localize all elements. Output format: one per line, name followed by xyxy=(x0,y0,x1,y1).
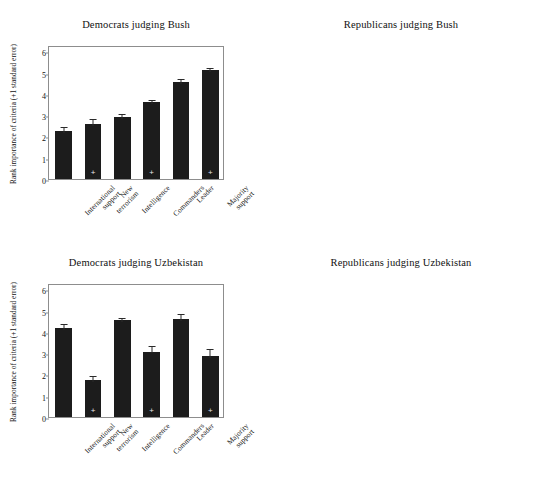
y-tick-label: 0 xyxy=(42,177,49,186)
significance-marker: + xyxy=(91,407,96,415)
error-bar-cap-top xyxy=(60,324,67,325)
y-tick-label: 1 xyxy=(42,155,49,164)
chart-panel-bottom-right: Republicans judging UzbekistanRank impor… xyxy=(265,240,537,481)
y-tick-label: 0 xyxy=(42,415,49,424)
x-tick-label: Majority support xyxy=(226,184,257,215)
panel-title: Republicans judging Uzbekistan xyxy=(265,257,537,268)
chart-panel-top-left: Democrats judging BushRank importance of… xyxy=(0,0,272,241)
error-bar-cap-top xyxy=(178,314,185,315)
y-tick-label: 5 xyxy=(42,308,49,317)
y-tick-label: 2 xyxy=(42,372,49,381)
error-bar-cap-top xyxy=(148,346,155,347)
bar xyxy=(114,117,130,179)
y-tick-label: 1 xyxy=(42,393,49,402)
error-bar xyxy=(151,346,152,354)
error-bar-cap-top xyxy=(90,376,97,377)
y-tick-label: 3 xyxy=(42,113,49,122)
error-bar xyxy=(181,314,182,321)
bar xyxy=(173,319,189,417)
panel-title: Democrats judging Uzbekistan xyxy=(0,257,272,268)
significance-marker: + xyxy=(208,407,213,415)
error-bar-cap-top xyxy=(148,100,155,101)
error-bar-cap-top xyxy=(207,349,214,350)
y-tick-label: 2 xyxy=(42,134,49,143)
chart-panel-top-right: Republicans judging BushRank importance … xyxy=(265,0,537,241)
plot-area: 0123456+++ xyxy=(48,46,224,180)
error-bar xyxy=(210,349,211,357)
bar xyxy=(202,70,218,179)
chart-panel-bottom-left: Democrats judging UzbekistanRank importa… xyxy=(0,240,272,481)
figure-four-panel-bar-charts: Democrats judging BushRank importance of… xyxy=(0,0,537,481)
x-tick-label: Intelligence xyxy=(141,184,172,215)
y-axis-label: Rank importance of criteria (+1 standard… xyxy=(10,44,18,184)
error-bar-cap-top xyxy=(90,119,97,120)
plot-area: 0123456+++ xyxy=(48,284,224,418)
y-axis-label: Rank importance of criteria (+1 standard… xyxy=(10,282,18,422)
significance-marker: + xyxy=(149,169,154,177)
y-tick-label: 6 xyxy=(42,287,49,296)
bar xyxy=(55,328,71,417)
y-tick-label: 4 xyxy=(42,329,49,338)
y-tick-label: 4 xyxy=(42,91,49,100)
x-tick-label: Intelligence xyxy=(141,422,172,453)
bar xyxy=(114,320,130,417)
error-bar-cap-top xyxy=(207,68,214,69)
error-bar-cap-top xyxy=(60,127,67,128)
panel-title: Democrats judging Bush xyxy=(0,19,272,30)
panel-title: Republicans judging Bush xyxy=(265,19,537,30)
y-tick-label: 6 xyxy=(42,49,49,58)
error-bar-cap-top xyxy=(119,318,126,319)
error-bar-cap-top xyxy=(178,79,185,80)
y-tick-label: 3 xyxy=(42,351,49,360)
error-bar-cap-top xyxy=(119,114,126,115)
significance-marker: + xyxy=(91,169,96,177)
x-tick-label: Majority support xyxy=(226,422,257,453)
bar xyxy=(55,131,71,179)
significance-marker: + xyxy=(149,407,154,415)
bar xyxy=(173,82,189,179)
y-tick-label: 5 xyxy=(42,70,49,79)
significance-marker: + xyxy=(208,169,213,177)
